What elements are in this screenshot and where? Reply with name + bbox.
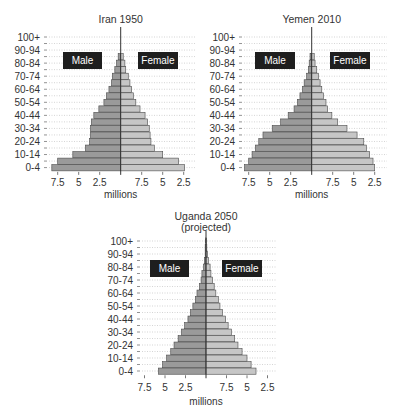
y-axis-label: 80-84 xyxy=(107,262,133,273)
y-axis-label: 0-4 xyxy=(119,366,134,377)
female-bar-45-49 xyxy=(206,310,222,316)
y-axis-label: 90-94 xyxy=(107,249,133,260)
y-axis-label: 100+ xyxy=(110,236,133,247)
female-bar-15-19 xyxy=(206,349,242,355)
x-axis-title: millions xyxy=(189,396,222,407)
male-bar-15-19 xyxy=(171,349,206,355)
male-bar-10-14 xyxy=(167,355,206,361)
male-bar-75-79 xyxy=(202,271,206,277)
male-bar-65-69 xyxy=(199,284,206,290)
legend-female-label: Female xyxy=(225,263,259,274)
legend-female: Female xyxy=(222,260,262,277)
y-axis-label: 70-74 xyxy=(107,275,133,286)
x-tick-label-female: 2.5 xyxy=(261,382,275,393)
male-bar-35-39 xyxy=(185,323,206,329)
female-bar-20-24 xyxy=(206,342,238,348)
chart-uganda-2050: Uganda 2050(projected)100+90-9480-8470-7… xyxy=(0,0,394,415)
x-tick-label-male: 2.5 xyxy=(179,382,193,393)
y-axis-label: 30-34 xyxy=(107,327,133,338)
male-bar-55-59 xyxy=(195,297,206,303)
female-bar-30-34 xyxy=(206,329,231,335)
male-bar-5-9 xyxy=(163,362,206,368)
legend-male-label: Male xyxy=(159,263,181,274)
y-axis-label: 40-44 xyxy=(107,314,133,325)
female-bar-55-59 xyxy=(206,297,218,303)
female-bar-25-29 xyxy=(206,336,235,342)
female-bar-35-39 xyxy=(206,323,228,329)
female-bar-40-44 xyxy=(206,316,226,322)
female-bar-5-9 xyxy=(206,362,251,368)
y-axis-label: 10-14 xyxy=(107,353,133,364)
male-bar-70-74 xyxy=(201,277,206,283)
male-bar-20-24 xyxy=(174,342,206,348)
female-bar-10-14 xyxy=(206,355,247,361)
female-bar-60-64 xyxy=(206,290,216,296)
male-bar-60-64 xyxy=(197,290,206,296)
y-axis-label: 60-64 xyxy=(107,288,133,299)
y-axis-label: 50-54 xyxy=(107,301,133,312)
male-bar-25-29 xyxy=(178,336,206,342)
x-tick-label-female: 7.5 xyxy=(220,382,234,393)
female-bar-65-69 xyxy=(206,284,214,290)
x-tick-label-female: 5 xyxy=(244,382,250,393)
female-bar-75-79 xyxy=(206,271,211,277)
x-tick-label-male: 5 xyxy=(162,382,168,393)
pyramid-svg-2: Uganda 2050(projected)100+90-9480-8470-7… xyxy=(0,0,394,415)
female-bar-0-4 xyxy=(206,368,256,374)
male-bar-30-34 xyxy=(181,329,206,335)
male-bar-45-49 xyxy=(190,310,206,316)
female-bar-70-74 xyxy=(206,277,213,283)
y-axis-label: 20-24 xyxy=(107,340,133,351)
x-tick-label-male: 7.5 xyxy=(138,382,152,393)
male-bar-40-44 xyxy=(188,316,206,322)
female-bar-80-84 xyxy=(206,264,210,270)
legend-male: Male xyxy=(150,260,189,277)
female-bar-50-54 xyxy=(206,303,220,309)
male-bar-50-54 xyxy=(193,303,206,309)
male-bar-0-4 xyxy=(158,368,206,374)
